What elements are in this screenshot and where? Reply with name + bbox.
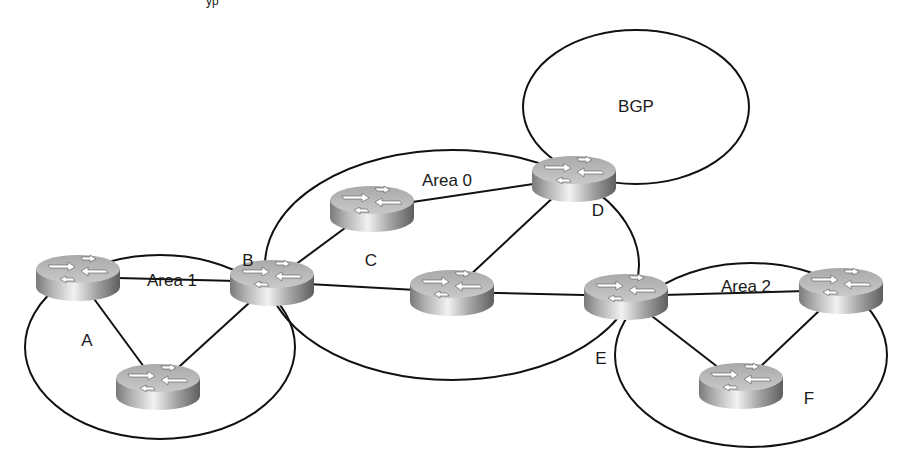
router-icon-E [584,274,668,320]
router-icon-C [330,186,414,232]
router-label-D: D [592,201,604,220]
router-icon-A [36,255,120,301]
network-diagram: yp Area 1Area 0BGPArea 2 ABCDEF [0,0,904,475]
router-icon-area2-right [799,268,883,314]
area-label-area1: Area 1 [147,271,197,290]
router-label-E: E [595,349,606,368]
router-label-C: C [365,251,377,270]
router-label-A: A [81,331,93,350]
router-icon-D [532,156,616,202]
area-label-bgp: BGP [618,97,654,116]
area-label-area2: Area 2 [721,277,771,296]
router-icon-area1-bottom [116,364,200,410]
cropped-caption-fragment: yp [206,0,219,8]
area-label-area0: Area 0 [422,171,472,190]
router-label-F: F [804,389,814,408]
router-icon-F [699,363,783,409]
router-icon-area0-middle [410,270,494,316]
router-label-B: B [242,251,253,270]
